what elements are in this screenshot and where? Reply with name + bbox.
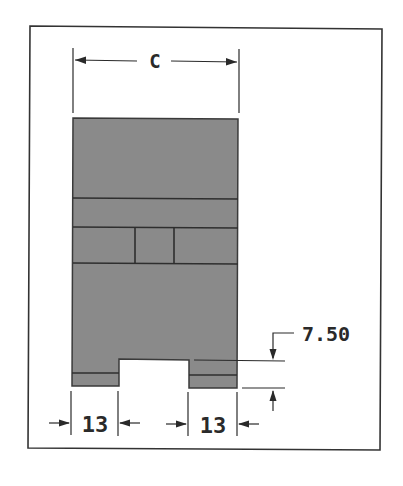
notch-height-label: 7.50 <box>302 322 350 346</box>
technical-drawing: C 7.50 13 13 <box>0 0 403 486</box>
body-division-line-3 <box>73 263 238 264</box>
body-division-line-2 <box>73 227 238 228</box>
body-outline <box>72 118 238 388</box>
right-foot-width-label: 13 <box>200 413 227 438</box>
left-foot-width-label: 13 <box>82 412 109 437</box>
component-body <box>72 118 238 388</box>
body-division-line-1 <box>73 198 238 199</box>
width-label: C <box>149 50 160 72</box>
